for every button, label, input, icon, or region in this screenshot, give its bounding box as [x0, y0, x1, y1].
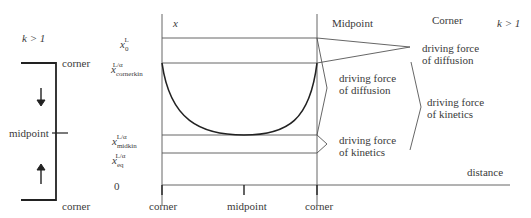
y-label-x-eq: xeqL/α — [112, 150, 125, 171]
left-corner-top-label: corner — [62, 57, 90, 69]
midpoint-brackets — [317, 38, 327, 153]
header-corner: Corner — [432, 14, 463, 26]
annotation-corner-kinetics: driving forceof kinetics — [427, 96, 484, 120]
annotation-mid-diffusion: driving forceof diffusion — [339, 72, 396, 96]
annotation-corner-diffusion: driving forceof diffusion — [422, 42, 479, 66]
y-label-zero: 0 — [114, 180, 120, 192]
up-arrow-icon — [37, 164, 45, 184]
header-condition: k > 1 — [497, 17, 520, 29]
left-condition-label: k > 1 — [22, 32, 45, 44]
concentration-curve — [162, 63, 317, 135]
x-axis-label: distance — [467, 166, 503, 178]
y-label-x-cornerkin: xcornerkinL/α — [111, 59, 123, 80]
x-tick-midpoint: midpoint — [227, 200, 267, 212]
y-label-x-midkin: xmidkinL/α — [112, 131, 127, 152]
y-axis-var-label: x — [173, 17, 178, 29]
annotation-mid-kinetics: driving forceof kinetics — [339, 134, 396, 158]
x-tick-corner-left: corner — [149, 200, 177, 212]
left-corner-bottom-label: corner — [62, 200, 90, 212]
y-label-x0L: x0L — [120, 34, 129, 55]
x-tick-corner-right: corner — [305, 200, 333, 212]
left-midpoint-label: midpoint — [9, 127, 49, 139]
header-midpoint: Midpoint — [332, 17, 373, 29]
down-arrow-icon — [37, 88, 45, 106]
